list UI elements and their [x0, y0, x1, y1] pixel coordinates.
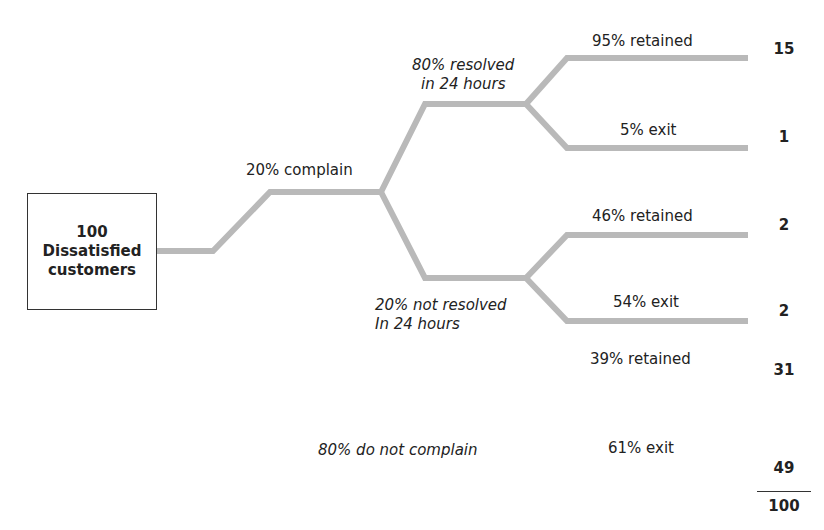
- outcome-label-2: 46% retained: [592, 207, 693, 225]
- root-label: Dissatisfied: [43, 242, 142, 261]
- branch-not-resolved: [381, 192, 526, 278]
- outcome-value-0: 15: [764, 40, 804, 58]
- total-divider: [757, 491, 811, 492]
- root-node-box: 100 Dissatisfied customers: [27, 193, 157, 310]
- outcome-value-3: 2: [764, 302, 804, 320]
- branch-resolved: [381, 104, 526, 192]
- branch-resolved-retained: [526, 58, 748, 104]
- label-complain: 20% complain: [246, 161, 353, 179]
- root-label-2: customers: [48, 261, 136, 280]
- outcome-label-3: 54% exit: [613, 293, 679, 311]
- outcome-label-5: 61% exit: [608, 439, 674, 457]
- outcome-label-0: 95% retained: [592, 32, 693, 50]
- label-not-resolved-2: In 24 hours: [375, 315, 460, 333]
- branch-not-resolved-retained: [526, 235, 748, 278]
- total-value: 100: [764, 497, 804, 515]
- root-count: 100: [76, 223, 107, 242]
- outcome-value-4: 31: [764, 361, 804, 379]
- label-resolved-2: in 24 hours: [421, 75, 505, 93]
- label-do-not-complain: 80% do not complain: [318, 441, 478, 459]
- outcome-value-5: 49: [764, 459, 804, 477]
- outcome-label-1: 5% exit: [620, 121, 676, 139]
- outcome-label-4: 39% retained: [590, 350, 691, 368]
- outcome-value-2: 2: [764, 216, 804, 234]
- branch-root-to-complain: [155, 192, 381, 251]
- label-resolved-1: 80% resolved: [412, 56, 514, 74]
- outcome-value-1: 1: [764, 128, 804, 146]
- label-not-resolved-1: 20% not resolved: [375, 296, 507, 314]
